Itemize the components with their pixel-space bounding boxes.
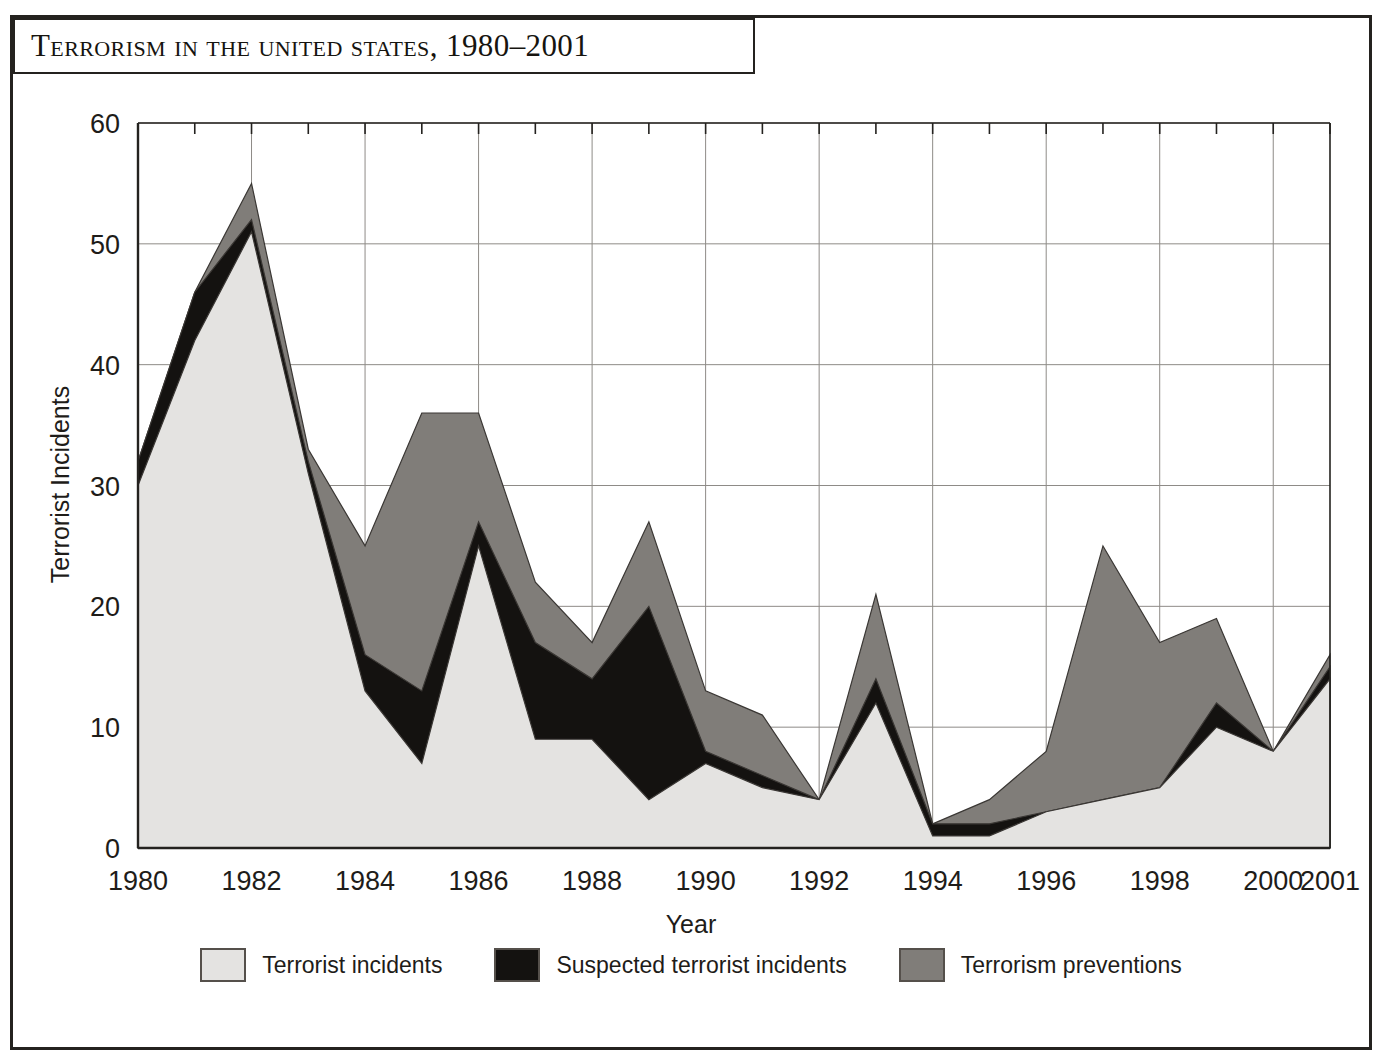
x-tick-label: 1984: [335, 866, 395, 896]
x-tick-label: 2001: [1300, 866, 1360, 896]
y-tick-label: 50: [90, 230, 120, 260]
legend-item-terrorism-preventions[interactable]: Terrorism preventions: [899, 948, 1182, 982]
x-axis-title: Year: [0, 910, 1382, 939]
y-tick-label: 10: [90, 713, 120, 743]
y-tick-label: 0: [105, 834, 120, 864]
chart-legend: Terrorist incidents Suspected terrorist …: [0, 948, 1382, 982]
legend-label-terrorism-preventions: Terrorism preventions: [961, 952, 1182, 979]
legend-swatch-terrorism-preventions: [899, 948, 945, 982]
x-tick-label: 1994: [903, 866, 963, 896]
legend-item-suspected-terrorist-incidents[interactable]: Suspected terrorist incidents: [494, 948, 846, 982]
x-tick-label: 1982: [221, 866, 281, 896]
top-tick-marks: [138, 123, 1330, 134]
x-tick-label: 1998: [1130, 866, 1190, 896]
x-tick-label: 2000: [1243, 866, 1303, 896]
y-tick-label: 40: [90, 351, 120, 381]
legend-swatch-suspected-terrorist-incidents: [494, 948, 540, 982]
x-tick-label: 1996: [1016, 866, 1076, 896]
x-tick-label: 1990: [676, 866, 736, 896]
x-tick-label: 1980: [108, 866, 168, 896]
chart-figure: Terrorism in the United States, 1980–200…: [0, 0, 1382, 1063]
legend-swatch-terrorist-incidents: [200, 948, 246, 982]
legend-label-terrorist-incidents: Terrorist incidents: [262, 952, 442, 979]
legend-item-terrorist-incidents[interactable]: Terrorist incidents: [200, 948, 442, 982]
y-axis-tick-labels: 0102030405060: [90, 109, 120, 864]
x-tick-label: 1986: [449, 866, 509, 896]
y-tick-label: 20: [90, 592, 120, 622]
area-chart-svg: 0102030405060 19801982198419861988199019…: [0, 0, 1382, 1063]
y-tick-label: 60: [90, 109, 120, 139]
plot-area: 0102030405060 19801982198419861988199019…: [0, 0, 1382, 1063]
y-axis-title: Terrorist Incidents: [46, 355, 75, 615]
x-axis-tick-labels: 1980198219841986198819901992199419961998…: [108, 866, 1360, 896]
x-tick-label: 1988: [562, 866, 622, 896]
stacked-area-series: [138, 183, 1330, 848]
y-tick-label: 30: [90, 472, 120, 502]
legend-label-suspected-terrorist-incidents: Suspected terrorist incidents: [556, 952, 846, 979]
x-tick-label: 1992: [789, 866, 849, 896]
